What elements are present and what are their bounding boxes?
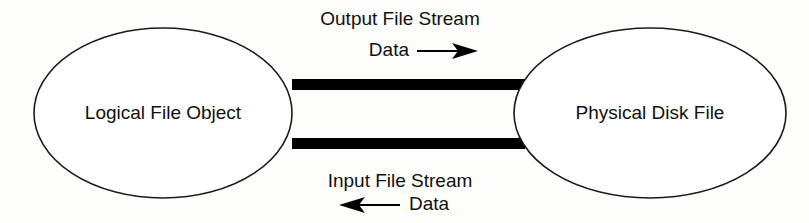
node-label-logical-file-object: Logical File Object (85, 102, 242, 123)
node-label-physical-disk-file: Physical Disk File (576, 102, 725, 123)
arrow-right-icon (417, 43, 478, 59)
diagram-canvas: Logical File Object Physical Disk File O… (0, 0, 809, 223)
arrow-left-icon (339, 197, 400, 213)
output-stream-bar (292, 79, 525, 90)
output-stream-label: Output File Stream (320, 8, 479, 29)
input-flow-label: Data (409, 193, 450, 214)
input-stream-bar (292, 138, 525, 149)
file-stream-diagram: Logical File Object Physical Disk File O… (0, 0, 809, 223)
output-flow-label: Data (369, 39, 410, 60)
input-stream-label: Input File Stream (328, 170, 473, 191)
